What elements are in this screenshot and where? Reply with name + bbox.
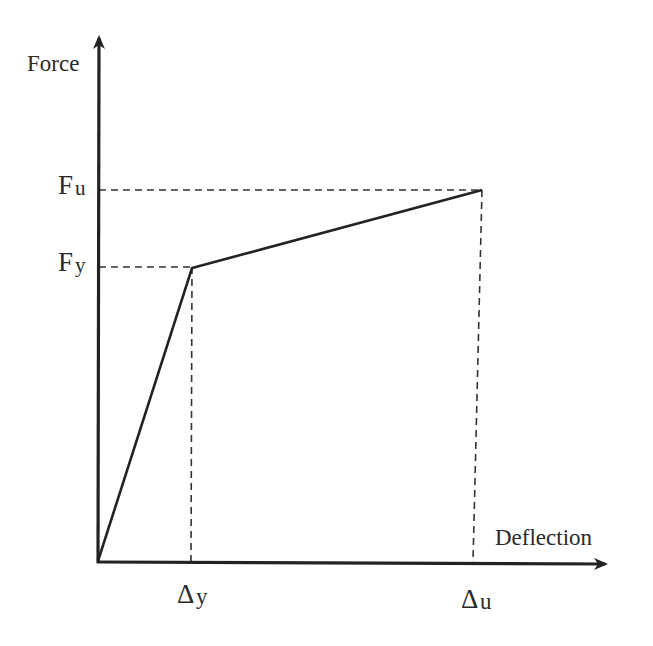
du-label-main: Δ — [461, 584, 478, 614]
dy-label-main: Δ — [177, 579, 194, 609]
fu-label: F u — [58, 170, 86, 200]
diagram-canvas: Force Deflection F u F y Δ y Δ u — [0, 0, 653, 646]
force-deflection-curve — [98, 190, 482, 561]
fy-label-sub: y — [75, 253, 86, 277]
x-axis-label: Deflection — [495, 525, 593, 550]
dy-guide-vertical — [191, 267, 192, 562]
du-label-sub: u — [480, 589, 492, 614]
du-guide-vertical — [473, 190, 482, 562]
force-deflection-diagram: Force Deflection F u F y Δ y Δ u — [0, 0, 653, 646]
x-axis — [97, 562, 605, 564]
fu-label-main: F — [58, 170, 73, 200]
fy-label-main: F — [58, 247, 73, 277]
fy-label: F y — [58, 247, 86, 277]
dy-label: Δ y — [177, 579, 208, 609]
y-axis-label: Force — [27, 51, 79, 76]
du-label: Δ u — [461, 584, 492, 614]
y-axis — [98, 38, 99, 563]
fu-label-sub: u — [75, 176, 86, 200]
dy-label-sub: y — [196, 584, 208, 609]
